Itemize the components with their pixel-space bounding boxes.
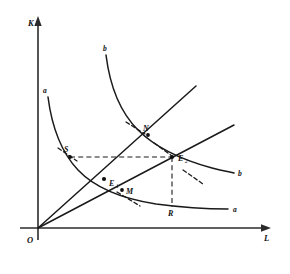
figure-container: K L O a b b a S N M R E 1 E 2: [0, 0, 290, 274]
point-label-E2: E 2: [177, 154, 188, 164]
tangent-marker-left-of-E2: [154, 143, 172, 156]
point-label-E1-subscript: 1: [116, 183, 119, 189]
point-label-E2-letter: E: [177, 154, 183, 163]
point-dot-E1: [102, 177, 106, 181]
caption-bar: [0, 262, 290, 274]
tangent-marker-right-of-E2: [183, 170, 203, 184]
point-label-E1: E 1: [108, 179, 119, 189]
point-label-S: S: [64, 145, 69, 154]
curve-label-b-top: b: [103, 44, 107, 53]
point-dot-S: [68, 155, 72, 159]
curve-label-b-right: b: [238, 169, 242, 178]
origin-label: O: [27, 235, 33, 245]
x-axis-arrowhead: [261, 224, 271, 231]
y-axis-label: K: [27, 18, 35, 28]
point-dot-N: [146, 133, 150, 137]
point-dot-M: [120, 188, 124, 192]
dashed-guides-group: [70, 157, 172, 207]
curve-label-a-right: a: [233, 205, 237, 214]
x-axis-label: L: [263, 233, 269, 243]
isoquant-diagram: K L O a b b a S N M R E 1 E 2: [0, 0, 290, 274]
curve-label-a-top: a: [43, 86, 47, 95]
y-axis-arrowhead: [34, 16, 41, 26]
point-label-R: R: [167, 209, 174, 218]
isoquant-curve-a: [48, 97, 228, 209]
point-dots-group: [68, 133, 174, 192]
point-label-E1-letter: E: [108, 179, 114, 188]
point-dot-E2: [170, 155, 174, 159]
point-label-M: M: [125, 187, 134, 196]
point-label-E2-subscript: 2: [185, 158, 188, 164]
